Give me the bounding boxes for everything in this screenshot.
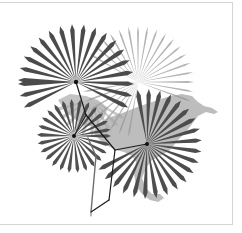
phylogeny-map-svg (0, 0, 242, 233)
tip-node-top-left (74, 80, 78, 84)
figure (0, 0, 242, 233)
tip-node-left (72, 134, 76, 138)
tip-node-right (145, 142, 149, 146)
branch-root-n1 (91, 200, 109, 212)
